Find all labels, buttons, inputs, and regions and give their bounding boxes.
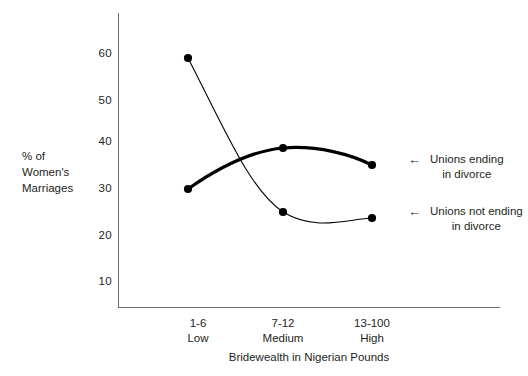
left-arrow-icon: ← xyxy=(408,204,421,219)
annotation-unions-ending-in-divorce: ← Unions ending in divorce xyxy=(430,152,504,182)
x-axis-title: Bridewealth in Nigerian Pounds xyxy=(118,351,500,363)
x-tick-label-level-3: High xyxy=(312,331,432,346)
y-tick-60: 60 xyxy=(86,48,112,60)
y-axis-title: % of Women's Marriages xyxy=(22,148,92,196)
x-tick-label-range-1: 1-6 xyxy=(190,317,207,329)
y-tick-label-50: 50 xyxy=(86,95,112,107)
data-point-divorce-low xyxy=(184,185,192,193)
y-axis-title-line-1: % of xyxy=(22,148,92,164)
data-point-not-divorce-high xyxy=(368,214,376,222)
x-tick-label-range-2: 7-12 xyxy=(271,317,294,329)
y-axis-title-line-2: Women's xyxy=(22,164,92,180)
y-axis-title-line-3: Marriages xyxy=(22,180,92,196)
annotation-divorce-line-2: in divorce xyxy=(430,167,504,182)
y-axis-line xyxy=(118,13,119,308)
y-tick-40: 40 xyxy=(86,136,112,148)
y-tick-label-10: 10 xyxy=(86,276,112,288)
left-arrow-icon: ← xyxy=(408,152,421,167)
y-tick-20: 20 xyxy=(86,230,112,242)
series-line-unions-ending-in-divorce xyxy=(188,147,372,189)
y-tick-label-60: 60 xyxy=(86,48,112,60)
y-tick-label-20: 20 xyxy=(86,230,112,242)
series-line-unions-not-ending-in-divorce xyxy=(188,58,372,223)
data-point-not-divorce-low xyxy=(184,54,192,62)
annotation-divorce-line-1: Unions ending xyxy=(430,153,504,165)
data-point-not-divorce-medium xyxy=(279,208,287,216)
annotation-no-divorce-line-1: Unions not ending xyxy=(430,205,523,217)
y-tick-50: 50 xyxy=(86,95,112,107)
data-point-divorce-medium xyxy=(279,144,287,152)
annotation-no-divorce-line-2: in divorce xyxy=(430,219,523,234)
x-tick-high: 13-100 High xyxy=(312,316,432,346)
data-point-divorce-high xyxy=(368,161,376,169)
annotation-unions-not-ending-in-divorce: ← Unions not ending in divorce xyxy=(430,204,523,234)
chart-figure: 60 50 40 30 20 10 % of Women's Marriages xyxy=(0,0,528,376)
x-axis-line xyxy=(118,307,500,308)
x-tick-label-range-3: 13-100 xyxy=(354,317,390,329)
y-tick-10: 10 xyxy=(86,276,112,288)
y-tick-label-40: 40 xyxy=(86,136,112,148)
